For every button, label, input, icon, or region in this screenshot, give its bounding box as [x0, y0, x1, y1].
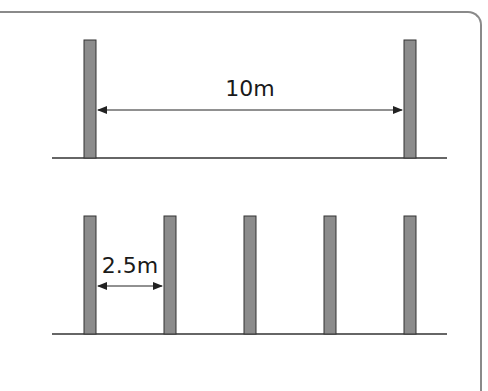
post — [324, 216, 336, 334]
distance-label-bottom: 2.5m — [102, 253, 158, 278]
distance-label-top: 10m — [225, 76, 274, 101]
post — [404, 40, 416, 158]
top-scenario: 10m — [52, 40, 447, 158]
post — [84, 40, 96, 158]
post — [404, 216, 416, 334]
post — [244, 216, 256, 334]
bottom-scenario: 2.5m — [52, 216, 447, 334]
post — [84, 216, 96, 334]
post — [164, 216, 176, 334]
